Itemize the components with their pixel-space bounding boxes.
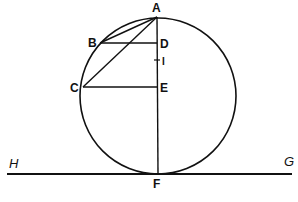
label-e: E — [160, 81, 168, 95]
label-f: F — [153, 177, 160, 191]
label-a: A — [152, 1, 161, 15]
label-d: D — [160, 37, 169, 51]
label-g: G — [284, 154, 294, 169]
geometry-diagram: A B D I C E F H G — [0, 0, 298, 202]
segment-af — [157, 17, 158, 174]
label-i: I — [162, 56, 165, 67]
label-h: H — [9, 156, 19, 171]
label-b: B — [88, 36, 97, 50]
label-c: C — [70, 81, 79, 95]
segment-ab — [100, 17, 157, 43]
